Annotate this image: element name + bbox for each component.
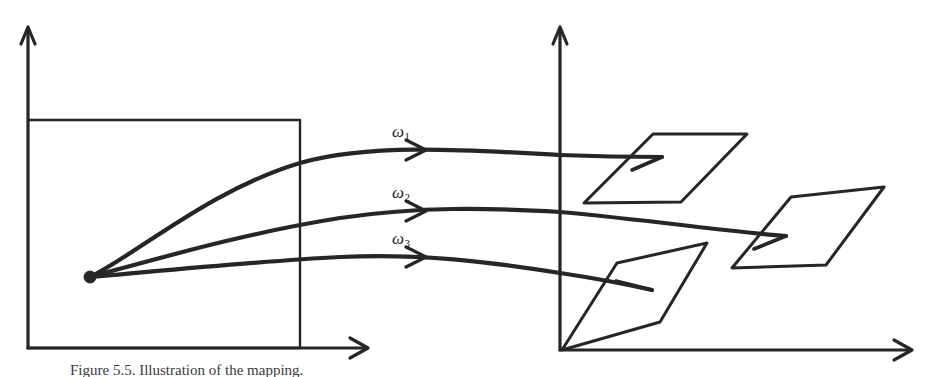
right-coordinate-system xyxy=(553,27,912,360)
omega-2-symbol: ω xyxy=(392,183,404,202)
target-patch-2 xyxy=(732,187,884,268)
trajectory-curves xyxy=(90,150,786,290)
figure-canvas xyxy=(0,0,932,377)
omega-1-label: ω1 xyxy=(392,122,410,142)
figure-caption: Figure 5.5. Illustration of the mapping. xyxy=(70,362,870,377)
target-patch-1 xyxy=(584,134,747,203)
source-point-dot xyxy=(84,271,96,283)
omega-3-label: ω3 xyxy=(392,229,410,249)
omega-3-subscript: 3 xyxy=(405,237,411,249)
figure-container: ω1 ω2 ω3 Figure 5.5. Illustration of the… xyxy=(0,0,932,377)
omega-3-symbol: ω xyxy=(392,229,404,248)
left-coordinate-system xyxy=(21,27,368,358)
omega-3-curve xyxy=(90,256,652,290)
omega-2-subscript: 2 xyxy=(405,191,411,203)
omega-2-label: ω2 xyxy=(392,183,410,203)
target-patches xyxy=(562,134,884,350)
omega-1-subscript: 1 xyxy=(405,130,411,142)
target-patch-3 xyxy=(562,243,707,350)
omega-1-symbol: ω xyxy=(392,122,404,141)
